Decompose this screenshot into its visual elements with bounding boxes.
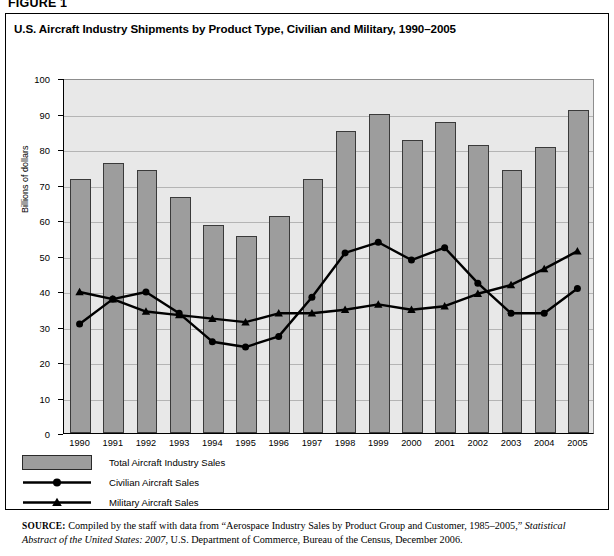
x-axis-label-2000: 2000 xyxy=(401,438,421,448)
x-axis-label-2005: 2005 xyxy=(567,438,587,448)
y-axis-tick-label: 70 xyxy=(40,180,50,191)
x-axis-label-1998: 1998 xyxy=(335,438,355,448)
y-axis-tick-label: 50 xyxy=(40,251,50,262)
y-axis-tick: 0 xyxy=(58,434,63,435)
bar-1995 xyxy=(236,236,257,433)
y-axis-title: Billions of dollars xyxy=(20,145,30,213)
bar-2004 xyxy=(535,147,556,433)
y-axis-tick-label: 10 xyxy=(40,393,50,404)
x-axis-label-1996: 1996 xyxy=(268,438,288,448)
legend-label-total: Total Aircraft Industry Sales xyxy=(109,457,225,468)
y-axis-tick-label: 100 xyxy=(34,74,50,85)
y-axis-tick: 100 xyxy=(58,79,63,80)
y-axis-tick: 10 xyxy=(58,399,63,400)
bar-1997 xyxy=(303,179,324,433)
chart-title: U.S. Aircraft Industry Shipments by Prod… xyxy=(14,22,456,35)
chart-plot-wrapper: 0102030405060708090100 19901991199219931… xyxy=(63,66,594,434)
bar-1994 xyxy=(203,225,224,433)
y-axis-tick: 50 xyxy=(58,257,63,258)
x-axis-label-1999: 1999 xyxy=(368,438,388,448)
x-axis-label-1995: 1995 xyxy=(235,438,255,448)
source-text-part-1: Compiled by the staff with data from “Ae… xyxy=(66,520,525,531)
x-axis-label-2001: 2001 xyxy=(434,438,454,448)
y-axis-tick-label: 60 xyxy=(40,216,50,227)
bar-2002 xyxy=(468,145,489,433)
y-axis-tick: 80 xyxy=(58,150,63,151)
gridline xyxy=(64,116,593,117)
bar-1992 xyxy=(137,170,158,433)
y-axis-tick-label: 20 xyxy=(40,358,50,369)
y-axis xyxy=(63,79,64,434)
bar-1996 xyxy=(269,216,290,433)
legend-item-civilian: Civilian Aircraft Sales xyxy=(22,472,352,492)
gridline xyxy=(64,151,593,152)
bar-2001 xyxy=(435,122,456,433)
y-axis-tick: 60 xyxy=(58,221,63,222)
plot-area xyxy=(63,79,594,434)
y-axis-tick: 20 xyxy=(58,363,63,364)
y-axis-tick: 70 xyxy=(58,186,63,187)
x-axis-label-1992: 1992 xyxy=(136,438,156,448)
bar-2003 xyxy=(502,170,523,433)
x-axis-label-2002: 2002 xyxy=(468,438,488,448)
legend-swatch-line-triangle-icon xyxy=(22,495,92,510)
x-axis-label-2004: 2004 xyxy=(534,438,554,448)
x-axis-label-2003: 2003 xyxy=(501,438,521,448)
x-axis-label-1990: 1990 xyxy=(69,438,89,448)
chart-legend: Total Aircraft Industry SalesCivilian Ai… xyxy=(22,452,352,512)
y-axis-tick-label: 40 xyxy=(40,287,50,298)
bar-1999 xyxy=(369,114,390,434)
legend-swatch-bar-icon xyxy=(22,455,92,470)
bar-1998 xyxy=(336,131,357,433)
bar-1993 xyxy=(170,197,191,433)
bar-1990 xyxy=(70,179,91,433)
legend-item-total: Total Aircraft Industry Sales xyxy=(22,452,352,472)
figure-number-label: FIGURE 1 xyxy=(8,0,67,10)
y-axis-tick-label: 0 xyxy=(45,429,50,440)
legend-label-military: Military Aircraft Sales xyxy=(109,497,199,508)
y-axis-tick: 30 xyxy=(58,328,63,329)
x-axis-label-1991: 1991 xyxy=(103,438,123,448)
bar-1991 xyxy=(103,163,124,433)
source-prefix: SOURCE: xyxy=(22,521,66,531)
y-axis-tick: 90 xyxy=(58,115,63,116)
legend-label-civilian: Civilian Aircraft Sales xyxy=(109,477,199,488)
y-axis-tick-label: 30 xyxy=(40,322,50,333)
x-axis-label-1994: 1994 xyxy=(202,438,222,448)
bar-2000 xyxy=(402,140,423,433)
y-axis-tick-label: 80 xyxy=(40,145,50,156)
x-axis-label-1997: 1997 xyxy=(302,438,322,448)
source-note: SOURCE: Compiled by the staff with data … xyxy=(22,519,600,547)
source-text-part-2: , U.S. Department of Commerce, Bureau of… xyxy=(165,534,462,545)
y-axis-tick: 40 xyxy=(58,292,63,293)
legend-swatch-line-circle-icon xyxy=(22,475,92,490)
bar-2005 xyxy=(568,110,589,433)
legend-item-military: Military Aircraft Sales xyxy=(22,492,352,512)
y-axis-tick-label: 90 xyxy=(40,109,50,120)
x-axis-label-1993: 1993 xyxy=(169,438,189,448)
